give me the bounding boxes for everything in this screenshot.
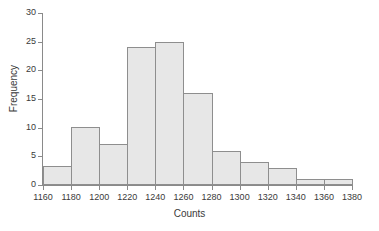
x-tick-mark (240, 186, 241, 190)
x-axis-title: Counts (0, 208, 379, 219)
histogram-bar (99, 144, 128, 185)
x-tick-label: 1380 (332, 192, 372, 202)
histogram-bar (296, 179, 325, 185)
x-tick-mark (268, 186, 269, 190)
histogram-bar (183, 93, 212, 185)
x-tick-mark (212, 186, 213, 190)
y-tick-mark (38, 185, 42, 186)
x-tick-mark (155, 186, 156, 190)
plot-area (43, 13, 352, 185)
x-tick-mark (183, 186, 184, 190)
histogram-bar (127, 47, 156, 185)
histogram-bar (71, 127, 100, 185)
histogram-bar (268, 168, 297, 185)
x-tick-mark (352, 186, 353, 190)
x-axis-line (42, 185, 353, 186)
histogram-bar (155, 42, 184, 185)
x-tick-mark (296, 186, 297, 190)
x-tick-mark (324, 186, 325, 190)
y-tick-label: 5 (14, 151, 36, 160)
x-tick-mark (99, 186, 100, 190)
histogram-bar (212, 151, 241, 185)
histogram-bar (240, 162, 269, 185)
x-tick-mark (127, 186, 128, 190)
histogram-bar (43, 166, 72, 185)
y-tick-mark (38, 128, 42, 129)
x-tick-mark (43, 186, 44, 190)
y-tick-mark (38, 42, 42, 43)
y-tick-mark (38, 13, 42, 14)
y-tick-mark (38, 70, 42, 71)
y-axis-title: Frequency (8, 44, 19, 134)
histogram-figure: 051015202530 116011801200122012401260128… (0, 0, 379, 231)
y-tick-mark (38, 99, 42, 100)
y-tick-mark (38, 156, 42, 157)
y-tick-label: 30 (14, 8, 36, 17)
x-tick-mark (71, 186, 72, 190)
histogram-bar (324, 179, 353, 185)
y-tick-label: 0 (14, 180, 36, 189)
